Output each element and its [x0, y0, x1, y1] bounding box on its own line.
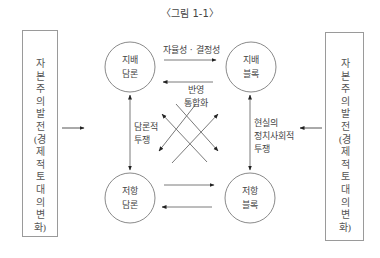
node-label-line1: 지배 [105, 53, 155, 67]
label-sociopolitical-struggle: 현실의 정치사회적 투쟁 [254, 117, 294, 156]
label-struggle: 투쟁 [254, 143, 294, 156]
figure-caption: 〈그림 1-1〉 [0, 5, 380, 20]
label-integration: 통합화 [176, 97, 216, 110]
node-label-dominant-bloc: 지배 블록 [226, 53, 276, 81]
label-reflection: 반영 [176, 84, 216, 97]
diagonal-arrow-down-right [176, 104, 218, 151]
label-sociopolitical: 정치사회적 [254, 130, 294, 143]
diagram-canvas [0, 0, 380, 258]
node-label-dominant-discourse: 지배 담론 [105, 53, 155, 81]
node-label-resistance-discourse: 저항 담론 [105, 184, 155, 212]
label-reflection-integration: 반영 통합화 [176, 84, 216, 110]
label-reality: 현실의 [254, 117, 294, 130]
node-label-line2: 담론 [105, 198, 155, 212]
label-autonomy-determinism: 자율성 · 결정성 [163, 44, 220, 57]
left-context-text: 자본주의발전(경제적토대의변화) [33, 58, 47, 234]
label-struggle: 투쟁 [134, 134, 158, 147]
node-label-line1: 저항 [225, 184, 275, 198]
diagonal-arrow-up-right [172, 114, 218, 163]
node-label-line1: 지배 [226, 53, 276, 67]
node-label-resistance-bloc: 저항 블록 [225, 184, 275, 212]
node-label-line2: 블록 [226, 67, 276, 81]
node-label-line2: 담론 [105, 67, 155, 81]
label-discursive: 담론적 [134, 121, 158, 134]
right-context-text: 자본주의발전(경제적토대의변화) [338, 58, 352, 234]
node-label-line2: 블록 [225, 198, 275, 212]
label-discursive-struggle: 담론적 투쟁 [134, 121, 158, 147]
node-label-line1: 저항 [105, 184, 155, 198]
